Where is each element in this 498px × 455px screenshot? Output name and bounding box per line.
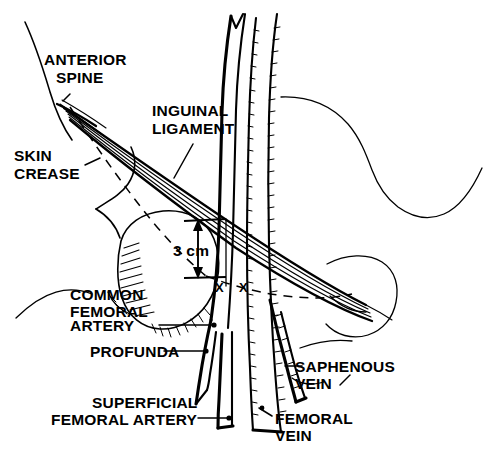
leader-dot-superficial-femoral-artery xyxy=(226,415,231,420)
common-femoral-artery-lateral-wall xyxy=(211,16,231,320)
label-inguinal-ligament-line1: INGUINAL xyxy=(152,102,229,119)
leader-skin-crease xyxy=(85,158,100,165)
label-femoral-vein-line2: VEIN xyxy=(275,427,312,444)
profunda-femoris-medial xyxy=(207,332,216,390)
puncture-marker-right: X xyxy=(239,280,248,295)
saphenous-vein-end xyxy=(296,398,306,402)
femoral-vein-lateral-wall xyxy=(247,18,256,430)
skin-crease-lower-dashed xyxy=(206,276,352,298)
label-superficial-femoral-artery-line2: FEMORAL ARTERY xyxy=(51,411,197,428)
label-skin-crease-line2: CREASE xyxy=(14,165,80,182)
right-flank-group xyxy=(281,97,482,348)
leader-dot-profunda xyxy=(203,348,208,353)
label-common-femoral-artery-line3: ARTERY xyxy=(70,317,135,334)
femoral-head-lower-hatching xyxy=(152,308,210,337)
right-flank-contour xyxy=(281,97,482,218)
leader-anterior-spine xyxy=(63,94,70,101)
leader-inguinal-ligament xyxy=(174,144,193,178)
label-skin-crease-line1: SKIN xyxy=(14,147,52,164)
figure-canvas: 3 cm X X xyxy=(0,0,498,455)
label-inguinal-ligament-line2: LIGAMENT xyxy=(152,120,235,137)
label-saphenous-vein-line2: VEIN xyxy=(295,375,332,392)
label-anterior-spine-line2: SPINE xyxy=(56,69,104,86)
superficial-femoral-artery-lateral xyxy=(218,334,222,428)
label-superficial-femoral-artery-line1: SUPERFICIAL xyxy=(92,394,198,411)
leader-dot-common-femoral-artery xyxy=(211,322,216,327)
leader-femoral-vein xyxy=(259,408,272,416)
dimension-bottom-extension xyxy=(184,277,226,278)
artery-top-notch xyxy=(231,14,243,28)
femoral-vein-medial-wall xyxy=(268,14,281,432)
dimension-label: 3 cm xyxy=(173,242,209,259)
lateral-thigh-contour xyxy=(96,209,120,238)
profunda-femoris-lateral xyxy=(196,320,211,404)
puncture-marker-left: X xyxy=(215,280,224,295)
superficial-femoral-artery-end xyxy=(218,426,233,428)
leader-saphenous-vein-tick xyxy=(340,375,350,385)
label-common-femoral-artery-line1: COMMON xyxy=(70,286,144,303)
label-anterior-spine-line1: ANTERIOR xyxy=(44,51,127,68)
label-profunda: PROFUNDA xyxy=(90,343,179,360)
anatomy-diagram: 3 cm X X xyxy=(0,0,498,455)
perineum-lower-fold xyxy=(300,340,352,348)
label-saphenous-vein-line1: SAPHENOUS xyxy=(295,358,395,375)
label-femoral-vein-line1: FEMORAL xyxy=(275,410,353,427)
